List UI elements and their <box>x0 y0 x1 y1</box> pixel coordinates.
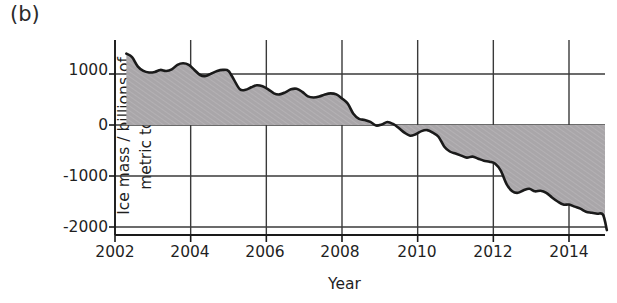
x-tick-label: 2012 <box>458 243 528 261</box>
x-tick-label: 2006 <box>230 243 300 261</box>
x-tick-label: 2014 <box>534 243 604 261</box>
x-axis-label-text: Year <box>328 275 361 293</box>
x-axis-label: Year <box>0 275 617 293</box>
x-tick-label: 2008 <box>305 243 375 261</box>
x-tick-label: 2010 <box>382 243 452 261</box>
figure-panel-b: (b) Ice mass / billions of metric tonnes… <box>0 0 617 303</box>
x-tick-label: 2002 <box>80 243 150 261</box>
x-axis-tick-labels: 2002 2004 2006 2008 2010 2012 2014 <box>0 0 617 303</box>
x-tick-label: 2004 <box>155 243 225 261</box>
